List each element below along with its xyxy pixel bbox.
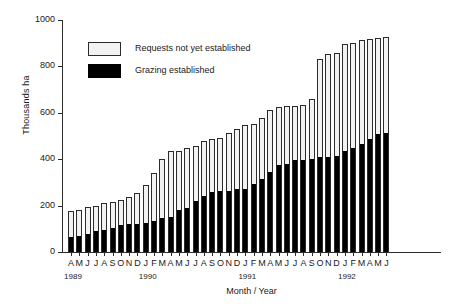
bar <box>334 53 340 252</box>
x-tick <box>362 252 363 256</box>
x-tick <box>262 252 263 256</box>
legend-label: Grazing established <box>135 65 215 75</box>
bar-segment-grazing-established <box>260 179 264 252</box>
x-tick <box>121 252 122 256</box>
bar <box>234 129 240 252</box>
x-tick <box>254 252 255 256</box>
x-tick <box>237 252 238 256</box>
bar <box>309 99 315 252</box>
bar <box>193 146 199 252</box>
bar <box>159 159 165 252</box>
x-tick <box>229 252 230 256</box>
x-tick <box>303 252 304 256</box>
x-tick <box>279 252 280 256</box>
bar-segment-grazing-established <box>160 218 164 252</box>
bar-segment-grazing-established <box>194 201 198 252</box>
x-tick <box>179 252 180 256</box>
x-axis-year-label: 1991 <box>232 272 262 282</box>
legend-item: Requests not yet established <box>88 41 318 63</box>
bar <box>217 138 223 252</box>
bar <box>375 38 381 252</box>
x-tick <box>295 252 296 256</box>
x-tick <box>353 252 354 256</box>
y-tick-label: 400 <box>40 153 55 164</box>
y-axis-title: Thousands ha <box>21 35 31 175</box>
bar-segment-grazing-established <box>293 160 297 252</box>
bar <box>367 39 373 252</box>
legend-swatch <box>88 64 121 78</box>
bar <box>85 207 91 252</box>
bar <box>292 106 298 252</box>
bar <box>68 211 74 252</box>
bar-segment-grazing-established <box>77 236 81 252</box>
bar-segment-grazing-established <box>335 156 339 252</box>
bar-segment-grazing-established <box>102 230 106 253</box>
bar <box>325 54 331 252</box>
y-tick-label: 200 <box>40 200 55 211</box>
bar <box>76 210 82 252</box>
bar <box>143 185 149 252</box>
x-tick <box>312 252 313 256</box>
x-tick <box>137 252 138 256</box>
x-axis-year-label: 1992 <box>332 272 362 282</box>
y-tick-label: 800 <box>40 60 55 71</box>
bar <box>284 106 290 252</box>
x-tick <box>320 252 321 256</box>
bar-segment-grazing-established <box>86 234 90 252</box>
bar-segment-grazing-established <box>135 224 139 252</box>
bar <box>184 148 190 252</box>
bar-segment-grazing-established <box>152 221 156 252</box>
x-tick <box>79 252 80 256</box>
x-tick <box>212 252 213 256</box>
bar <box>359 40 365 252</box>
bar-segment-grazing-established <box>218 191 222 252</box>
bar <box>276 107 282 252</box>
bar-segment-grazing-established <box>111 228 115 252</box>
legend-label: Requests not yet established <box>135 43 251 53</box>
bar <box>110 202 116 252</box>
bar-segment-grazing-established <box>169 217 173 252</box>
x-tick <box>196 252 197 256</box>
bar-segment-grazing-established <box>285 164 289 252</box>
bar <box>267 110 273 252</box>
x-tick <box>96 252 97 256</box>
bar <box>176 151 182 252</box>
bar <box>242 125 248 252</box>
bar-segment-grazing-established <box>343 151 347 252</box>
bar <box>134 193 140 252</box>
bar-segment-grazing-established <box>318 157 322 252</box>
bar-segment-grazing-established <box>252 184 256 252</box>
bar-segment-grazing-established <box>368 139 372 252</box>
x-tick <box>154 252 155 256</box>
bar <box>317 59 323 252</box>
bar <box>259 118 265 252</box>
bar-segment-grazing-established <box>310 159 314 252</box>
bar-segment-grazing-established <box>360 144 364 252</box>
bar-segment-grazing-established <box>202 196 206 252</box>
x-tick <box>113 252 114 256</box>
x-tick <box>146 252 147 256</box>
bar <box>342 44 348 252</box>
x-axis-year-label: 1989 <box>58 272 88 282</box>
x-tick <box>71 252 72 256</box>
x-tick <box>370 252 371 256</box>
y-tick-label: 0 <box>50 246 55 257</box>
bar <box>118 200 124 252</box>
x-tick <box>270 252 271 256</box>
x-tick <box>104 252 105 256</box>
x-tick <box>287 252 288 256</box>
bar-segment-grazing-established <box>185 208 189 252</box>
x-axis-year-label: 1990 <box>133 272 163 282</box>
bar-segment-grazing-established <box>301 160 305 252</box>
bar <box>209 139 215 252</box>
x-tick <box>386 252 387 256</box>
x-tick <box>204 252 205 256</box>
bar <box>383 37 389 252</box>
y-tick: 0 <box>58 252 62 253</box>
bar-segment-grazing-established <box>94 231 98 252</box>
x-tick <box>345 252 346 256</box>
legend-swatch <box>88 42 121 56</box>
bar-segment-grazing-established <box>326 157 330 252</box>
bar-segment-grazing-established <box>144 223 148 252</box>
bar <box>151 173 157 252</box>
